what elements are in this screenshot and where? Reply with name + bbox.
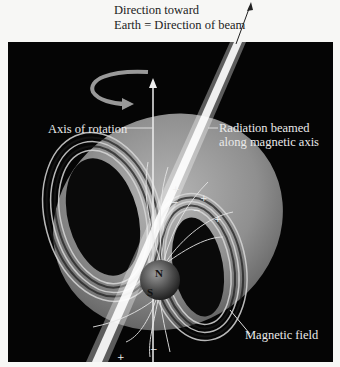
- radiation-label-line2: along magnetic axis: [219, 135, 319, 149]
- magnetic-field-label: Magnetic field: [245, 328, 318, 342]
- svg-text:−: −: [171, 197, 179, 207]
- svg-text:+: +: [172, 184, 180, 194]
- svg-text:+: +: [117, 352, 125, 362]
- beam-direction-line1: Direction toward: [114, 3, 245, 18]
- rotation-arrow-icon: [92, 72, 148, 110]
- radiation-beam-label: Radiation beamed along magnetic axis: [219, 121, 319, 149]
- svg-text:+: +: [214, 214, 222, 224]
- neutron-star: [140, 260, 180, 300]
- svg-text:+: +: [200, 193, 208, 203]
- radiation-label-line1: Radiation beamed: [219, 121, 319, 135]
- beam-direction-label: Direction toward Earth = Direction of be…: [114, 3, 245, 33]
- south-pole-label: S: [147, 286, 153, 298]
- beam-direction-line2: Earth = Direction of beam: [114, 18, 245, 33]
- svg-text:−: −: [193, 205, 201, 215]
- svg-text:−: −: [150, 344, 158, 354]
- pulsar-illustration: + − + − + + + −: [8, 42, 333, 362]
- pulsar-diagram-panel: + − + − + + + − Axis of rotation Radiati…: [8, 42, 333, 362]
- axis-of-rotation-label: Axis of rotation: [48, 122, 127, 136]
- north-pole-label: N: [155, 267, 163, 279]
